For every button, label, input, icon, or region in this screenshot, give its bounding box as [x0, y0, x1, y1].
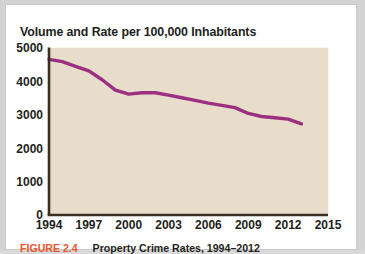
figure-card: Volume and Rate per 100,000 Inhabitants …	[5, 4, 357, 250]
x-tick-label: 1997	[76, 218, 103, 232]
x-tick-label: 2003	[155, 218, 182, 232]
figure-caption: FIGURE 2.4 Property Crime Rates, 1994–20…	[20, 242, 260, 254]
y-tick-label: 5000	[16, 41, 43, 55]
y-tick-label: 1000	[16, 175, 43, 189]
x-tick-label: 2009	[235, 218, 262, 232]
figure-number: FIGURE 2.4	[20, 242, 78, 254]
x-tick-label: 2006	[195, 218, 222, 232]
figure-caption-text: Property Crime Rates, 1994–2012	[93, 242, 260, 254]
y-tick-label: 3000	[16, 108, 43, 122]
x-tick-label: 2012	[275, 218, 302, 232]
y-tick-label: 4000	[16, 75, 43, 89]
x-tick-label: 1994	[36, 218, 63, 232]
y-axis-tick-labels: 010002000300040005000	[16, 41, 43, 222]
x-tick-label: 2000	[115, 218, 142, 232]
x-tick-label: 2015	[315, 218, 342, 232]
y-tick-label: 2000	[16, 142, 43, 156]
x-axis-tick-labels: 19941997200020032006200920122015	[36, 218, 342, 232]
chart-canvas: 010002000300040005000 199419972000200320…	[6, 5, 358, 251]
line-chart: 010002000300040005000 199419972000200320…	[6, 5, 358, 251]
